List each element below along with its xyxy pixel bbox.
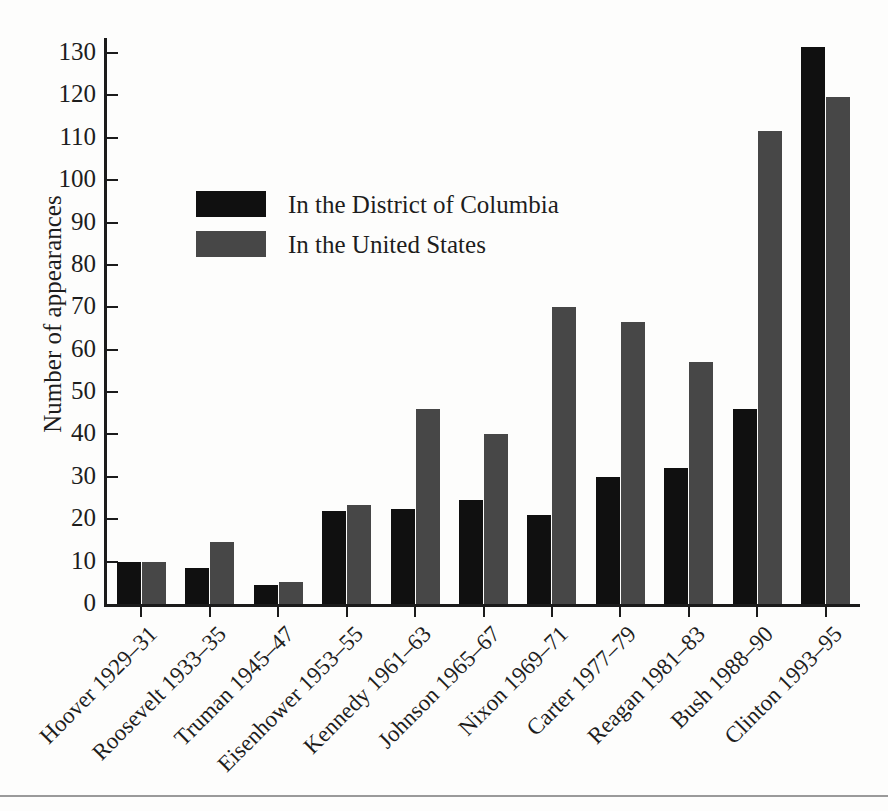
y-tick-mark <box>107 476 118 478</box>
bar-dc <box>185 568 209 604</box>
y-tick-mark <box>107 222 118 224</box>
bar-us <box>621 322 645 604</box>
bar-us <box>758 131 782 604</box>
bar-dc <box>733 409 757 604</box>
y-tick-mark <box>107 264 118 266</box>
x-tick-mark <box>688 607 690 617</box>
y-tick-label: 60 <box>50 336 96 361</box>
x-tick-mark <box>825 607 827 617</box>
y-tick-label: 90 <box>50 209 96 234</box>
x-tick-mark <box>209 607 211 617</box>
y-tick-mark <box>107 349 118 351</box>
y-tick-mark <box>107 433 118 435</box>
y-tick-label: 100 <box>50 166 96 191</box>
bar-dc <box>801 47 825 604</box>
bar-us <box>210 542 234 604</box>
bar-chart-plot: Number of appearances 010203040506070809… <box>0 0 888 811</box>
bar-us <box>484 434 508 604</box>
y-axis-line <box>104 38 107 606</box>
figure-container: Number of appearances 010203040506070809… <box>0 0 888 811</box>
bar-us <box>142 562 166 604</box>
y-tick-mark <box>107 52 118 54</box>
y-tick-mark <box>107 94 118 96</box>
y-tick-mark <box>107 306 118 308</box>
y-tick-label: 120 <box>50 81 96 106</box>
y-tick-mark <box>107 518 118 520</box>
page-bottom-rule <box>0 795 888 797</box>
x-tick-mark <box>346 607 348 617</box>
legend-swatch-dc-icon <box>196 191 266 217</box>
y-tick-mark <box>107 137 118 139</box>
y-tick-label: 50 <box>50 378 96 403</box>
legend-item-dc: In the District of Columbia <box>196 190 559 218</box>
x-tick-mark <box>483 607 485 617</box>
bar-dc <box>117 562 141 604</box>
y-tick-label: 0 <box>50 590 96 615</box>
bar-dc <box>459 500 483 604</box>
bar-dc <box>596 477 620 604</box>
x-tick-mark <box>551 607 553 617</box>
y-tick-label: 70 <box>50 293 96 318</box>
bar-dc <box>527 515 551 604</box>
y-tick-label: 130 <box>50 39 96 64</box>
x-tick-mark <box>414 607 416 617</box>
bar-us <box>347 505 371 604</box>
legend-label-us: In the United States <box>288 232 486 257</box>
y-tick-label: 20 <box>50 505 96 530</box>
bar-dc <box>391 509 415 604</box>
legend-item-us: In the United States <box>196 230 559 258</box>
legend-label-dc: In the District of Columbia <box>288 192 559 217</box>
y-tick-label: 10 <box>50 548 96 573</box>
bar-dc <box>322 511 346 604</box>
y-tick-label: 30 <box>50 463 96 488</box>
y-tick-label: 110 <box>50 124 96 149</box>
bar-us <box>416 409 440 604</box>
bar-us <box>279 582 303 604</box>
bar-us <box>552 307 576 604</box>
y-tick-label: 80 <box>50 251 96 276</box>
bar-us <box>826 97 850 604</box>
y-tick-mark <box>107 179 118 181</box>
y-tick-mark <box>107 391 118 393</box>
bar-dc <box>664 468 688 604</box>
chart-legend: In the District of Columbia In the Unite… <box>196 190 559 270</box>
x-tick-mark <box>277 607 279 617</box>
x-tick-mark <box>140 607 142 617</box>
bar-dc <box>254 585 278 604</box>
x-tick-mark <box>756 607 758 617</box>
x-tick-mark <box>619 607 621 617</box>
bar-us <box>689 362 713 604</box>
legend-swatch-us-icon <box>196 231 266 257</box>
y-tick-label: 40 <box>50 420 96 445</box>
